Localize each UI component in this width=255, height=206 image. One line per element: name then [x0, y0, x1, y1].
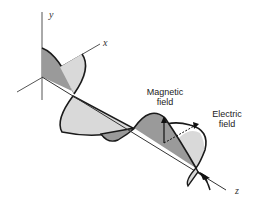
y-axis-label: y [49, 9, 53, 20]
electric-label-line2: field [202, 119, 252, 129]
z-axis-label: z [235, 185, 239, 196]
electric-label-line1: Electric [202, 109, 252, 119]
electric-lobe-4 [187, 168, 198, 186]
electric-field-label: Electric field [202, 109, 252, 129]
magnetic-label-line2: field [140, 97, 190, 107]
magnetic-field-label: Magnetic field [140, 87, 190, 107]
x-axis-label: x [103, 37, 107, 48]
em-wave-diagram [0, 0, 255, 206]
electric-lobe-2 [60, 96, 133, 135]
magnetic-label-line1: Magnetic [140, 87, 190, 97]
electric-lobe-1 [60, 54, 87, 94]
